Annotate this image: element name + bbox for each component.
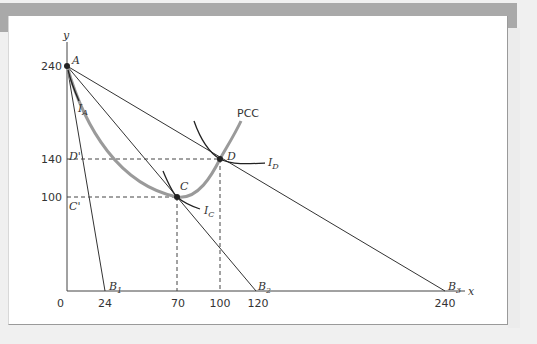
y-tick-100: 100 (41, 191, 62, 204)
budget-b2-label: B2 (257, 280, 271, 295)
y-tick-140: 140 (41, 153, 62, 166)
x-tick-120: 120 (248, 297, 269, 310)
x-tick-240: 240 (435, 297, 456, 310)
x-tick-70: 70 (171, 297, 185, 310)
ia-label: IA (77, 102, 88, 117)
y-tick-240: 240 (41, 60, 62, 73)
budget-b3-label: B3 (447, 280, 461, 295)
point-c-prime-label: C' (69, 200, 80, 213)
point-d-label: D (226, 150, 236, 163)
point-d-prime-label: D' (68, 150, 81, 163)
budget-line-b1 (67, 66, 105, 291)
pcc-curve (67, 66, 241, 197)
x-tick-100: 100 (210, 297, 231, 310)
budget-line-b3 (67, 66, 445, 291)
point-d-marker (217, 156, 223, 162)
budget-line-b2 (67, 66, 256, 291)
ic-label: IC (203, 204, 214, 219)
budget-b1-label: B1 (108, 280, 122, 295)
x-axis-label: x (468, 285, 475, 298)
point-c-label: C (180, 180, 189, 193)
pcc-label: PCC (237, 107, 259, 120)
point-a-label: A (71, 54, 80, 67)
point-a-marker (64, 63, 70, 69)
id-label: ID (267, 156, 279, 171)
x-tick-24: 24 (98, 297, 112, 310)
origin-label: 0 (57, 297, 64, 310)
pcc-diagram: y x 0 240 140 100 24 70 100 120 240 A C … (0, 0, 537, 344)
point-c-marker (174, 194, 180, 200)
y-axis-label: y (62, 29, 70, 42)
